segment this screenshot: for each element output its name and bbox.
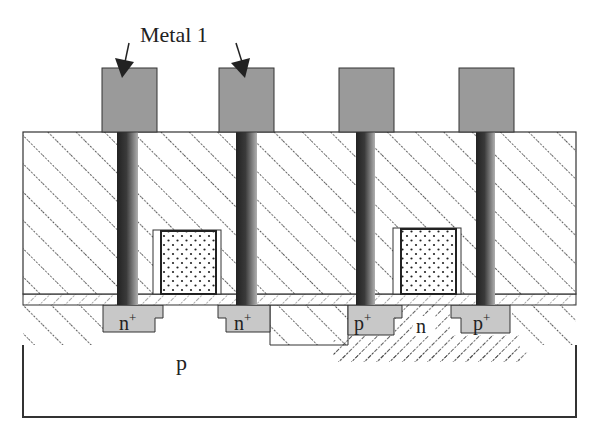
substrate-label: p xyxy=(176,350,187,375)
n-well-label: n xyxy=(416,315,426,337)
metal1-pads xyxy=(102,68,514,132)
cmos-cross-section: Metal 1 n+ n+ p+ p+ n p xyxy=(0,0,605,445)
metal1-label: Metal 1 xyxy=(140,22,208,47)
